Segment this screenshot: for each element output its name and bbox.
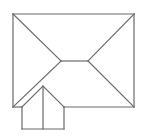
hip-bottom-right xyxy=(88,61,134,107)
hip-top-left xyxy=(13,14,61,61)
roof-plan-diagram xyxy=(0,0,144,137)
hip-bottom-left xyxy=(13,61,61,107)
hip-top-right xyxy=(88,14,134,61)
